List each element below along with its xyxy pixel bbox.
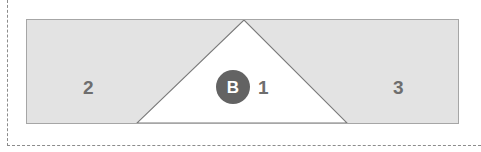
bottom-dashed-guide-line — [7, 145, 481, 146]
diagram-canvas: 2 1 3 B — [0, 0, 481, 152]
badge-b[interactable]: B — [216, 70, 250, 104]
triangle-shape[interactable] — [137, 20, 347, 123]
region-label-3: 3 — [393, 78, 404, 97]
center-triangle-cutout[interactable] — [27, 20, 458, 123]
triangle-cutout-container — [27, 20, 458, 123]
badge-b-label: B — [227, 79, 239, 96]
region-label-2: 2 — [83, 78, 94, 97]
region-label-1: 1 — [258, 78, 269, 97]
left-dashed-guide-line — [7, 0, 8, 146]
